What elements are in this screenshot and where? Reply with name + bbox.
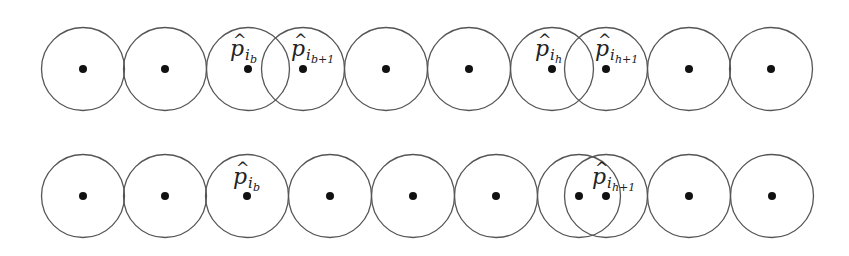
center-point — [243, 192, 251, 200]
center-point — [79, 65, 87, 73]
hat-accent: ^ — [598, 31, 611, 50]
hat-accent: ^ — [538, 31, 551, 50]
label-sub-subscript: b — [253, 181, 260, 194]
disk — [511, 28, 594, 111]
center-point — [409, 192, 417, 200]
center-point — [79, 192, 87, 200]
disk — [372, 155, 455, 238]
center-point — [602, 192, 610, 200]
disk — [124, 155, 207, 238]
center-point — [767, 65, 775, 73]
center-point — [768, 192, 776, 200]
disk — [42, 28, 125, 111]
center-point — [244, 65, 252, 73]
disk — [428, 28, 511, 111]
hat-accent: ^ — [236, 159, 249, 178]
label-sub-subscript: h — [555, 53, 562, 66]
center-point — [685, 192, 693, 200]
disk — [345, 28, 428, 111]
disk — [42, 155, 125, 238]
center-point — [575, 192, 583, 200]
disk — [731, 155, 814, 238]
circle-packing-diagram: pib^pib+1^pih^pih+1^pib^pih+1^ — [0, 0, 849, 256]
center-point — [685, 65, 693, 73]
hat-accent: ^ — [233, 31, 246, 50]
center-point — [548, 65, 556, 73]
bottom-row: pib^pih+1^ — [42, 155, 814, 238]
hat-accent: ^ — [595, 159, 608, 178]
hat-accent: ^ — [294, 31, 307, 50]
center-point — [326, 192, 334, 200]
center-point — [465, 65, 473, 73]
label-sub-subscript: b+1 — [311, 53, 334, 66]
label-sub-subscript: h+1 — [615, 53, 638, 66]
center-point — [382, 65, 390, 73]
center-point — [299, 65, 307, 73]
label-sub-subscript: h+1 — [612, 181, 635, 194]
disk — [207, 28, 290, 111]
disk — [289, 155, 372, 238]
center-point — [492, 192, 500, 200]
disk — [455, 155, 538, 238]
top-row: pib^pib+1^pih^pih+1^ — [42, 28, 813, 111]
disk — [648, 28, 731, 111]
label-sub-subscript: b — [250, 53, 257, 66]
center-point — [161, 192, 169, 200]
disk — [730, 28, 813, 111]
disk — [124, 28, 207, 111]
center-point — [161, 65, 169, 73]
disk — [648, 155, 731, 238]
center-point — [602, 65, 610, 73]
